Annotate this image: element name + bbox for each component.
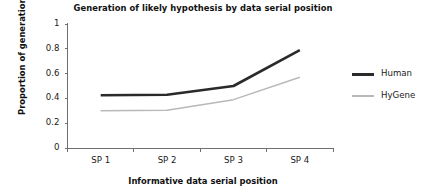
data-series-group [101,50,300,111]
y-tick-label: 0 [34,143,60,152]
axis-ticks [65,24,334,152]
legend-label-hygene: HyGene [381,90,415,100]
legend-entry-human: Human [352,62,432,84]
axis-spines [68,23,334,148]
x-tick-label: SP 3 [208,155,258,165]
y-tick-label: 0.6 [34,69,60,78]
y-tick-label: 0.2 [34,118,60,127]
x-tick-label: SP 2 [142,155,192,165]
legend-entry-hygene: HyGene [352,84,432,106]
chart-legend: Human HyGene [352,62,432,106]
legend-label-human: Human [381,68,412,78]
x-tick-label: SP 1 [76,155,126,165]
y-tick-label: 0.8 [34,44,60,53]
x-tick-label: SP 4 [275,155,325,165]
y-tick-label: 1 [34,19,60,28]
y-tick-label: 0.4 [34,93,60,102]
series-line-human [101,50,300,95]
chart-figure: Generation of likely hypothesis by data … [0,0,435,196]
legend-line-swatch-hygene [352,90,374,100]
legend-line-swatch-human [352,68,374,78]
